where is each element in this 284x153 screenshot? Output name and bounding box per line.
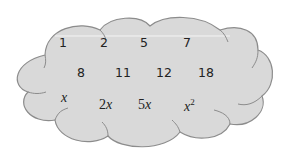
term-x: x [61, 91, 67, 105]
term-x-squared: x2 [184, 98, 195, 114]
term-18: 18 [198, 67, 214, 80]
term-7: 7 [183, 37, 191, 50]
term-5x-coef: 5 [138, 97, 145, 112]
term-12: 12 [156, 67, 172, 80]
term-11: 11 [115, 67, 131, 80]
term-5x-var: x [145, 97, 151, 112]
term-2x-var: x [106, 97, 112, 112]
cloud-shape [0, 0, 284, 153]
number-cloud: 1 2 5 7 8 11 12 18 x 2x 5x x2 [0, 0, 284, 153]
term-5x: 5x [138, 98, 151, 112]
term-2x: 2x [99, 98, 112, 112]
term-2x-coef: 2 [99, 97, 106, 112]
term-1: 1 [59, 37, 67, 50]
term-x-squared-exp: 2 [190, 97, 195, 107]
term-2: 2 [100, 37, 108, 50]
term-8: 8 [77, 67, 85, 80]
term-5: 5 [140, 37, 148, 50]
